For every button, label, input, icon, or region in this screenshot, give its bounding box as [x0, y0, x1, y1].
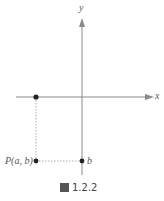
- point-b-label: b: [87, 156, 92, 166]
- point-b: [80, 159, 85, 164]
- point-P-label: P(a, b): [5, 156, 33, 166]
- caption-number: 1.2.2: [72, 182, 97, 193]
- x-axis-arrow-icon: [145, 94, 154, 100]
- point-on-x-axis: [33, 94, 38, 99]
- point-P: [34, 159, 39, 164]
- y-axis-label: y: [79, 3, 83, 13]
- x-axis-label: x: [155, 91, 159, 101]
- figure-caption: 1.2.2: [60, 183, 97, 193]
- coordinate-diagram: [0, 0, 164, 201]
- y-axis-arrow-icon: [79, 18, 85, 27]
- figure-glyph-icon: [60, 183, 69, 192]
